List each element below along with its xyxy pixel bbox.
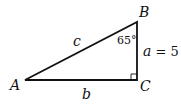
vertex-label-a: A: [8, 77, 20, 93]
side-a-variable: a: [143, 43, 151, 59]
triangle-diagram: A B C c b a = 5 65°: [0, 0, 181, 105]
angle-b-label: 65°: [117, 34, 137, 47]
side-a-value: = 5: [151, 44, 178, 59]
vertex-label-c: C: [140, 78, 151, 94]
side-label-c: c: [73, 33, 81, 49]
vertex-label-b: B: [138, 4, 149, 20]
side-label-a: a = 5: [143, 43, 179, 59]
side-label-b: b: [82, 86, 91, 102]
triangle-abc: [25, 22, 137, 80]
